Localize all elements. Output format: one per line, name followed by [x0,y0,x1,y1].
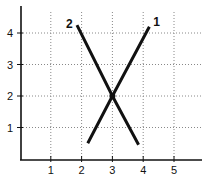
y-tick-label: 2 [7,90,13,102]
x-tick-label: 1 [48,164,54,176]
x-tick-label: 5 [171,164,177,176]
line-chart: 123451234 12 [0,0,204,178]
tick-labels: 123451234 [7,27,177,176]
series-label-2: 2 [66,17,73,31]
intersection-point [109,93,115,99]
series-line-1 [88,27,150,144]
series-lines [77,25,149,145]
y-tick-label: 4 [7,27,13,39]
x-tick-label: 4 [140,164,146,176]
x-tick-label: 3 [109,164,115,176]
series-label-1: 1 [153,15,160,29]
grid [20,12,202,159]
y-tick-label: 3 [7,59,13,71]
y-tick-label: 1 [7,122,13,134]
series-line-2 [77,25,139,145]
x-tick-label: 2 [79,164,85,176]
